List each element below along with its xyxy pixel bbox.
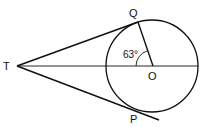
diagram-canvas: T Q O P 63°: [0, 0, 207, 127]
point-label-p: P: [130, 113, 137, 125]
tangent-tp: [17, 66, 159, 120]
radius-oq: [138, 22, 153, 66]
point-label-q: Q: [129, 7, 138, 19]
point-label-o: O: [148, 70, 157, 82]
angle-label: 63°: [123, 49, 138, 60]
point-label-t: T: [3, 60, 10, 72]
tangent-tq: [17, 22, 138, 66]
tangent-circle-diagram: T Q O P 63°: [0, 0, 207, 127]
